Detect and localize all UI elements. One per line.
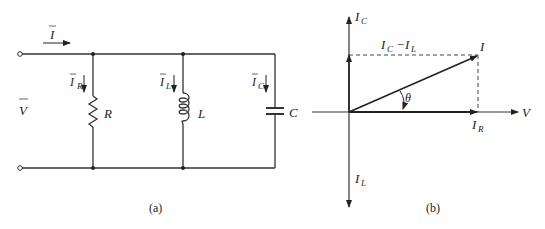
parallel-rlc-circuit bbox=[21, 54, 284, 168]
ir-label: I R bbox=[471, 117, 484, 134]
svg-text:I: I bbox=[69, 75, 75, 89]
svg-text:I: I bbox=[251, 75, 257, 89]
svg-text:I: I bbox=[380, 37, 386, 52]
source-current-label: I bbox=[49, 26, 56, 42]
svg-text:I: I bbox=[354, 171, 360, 186]
svg-text:L: L bbox=[410, 44, 416, 54]
svg-text:I: I bbox=[354, 9, 360, 24]
svg-text:I: I bbox=[49, 27, 55, 42]
caption-b: (b) bbox=[426, 201, 440, 215]
resistor-symbol bbox=[89, 96, 97, 127]
svg-text:I: I bbox=[159, 75, 165, 89]
svg-text:C: C bbox=[258, 81, 265, 91]
caption-a: (a) bbox=[149, 201, 162, 215]
svg-text:L: L bbox=[165, 81, 171, 91]
svg-text:L: L bbox=[360, 178, 366, 188]
svg-text:R: R bbox=[477, 124, 484, 134]
terminal-top[interactable] bbox=[18, 52, 23, 57]
terminal-bottom[interactable] bbox=[18, 166, 23, 171]
svg-text:I: I bbox=[471, 117, 477, 132]
resistor-label: R bbox=[103, 106, 112, 121]
inductor-label: L bbox=[197, 106, 205, 121]
svg-text:C: C bbox=[387, 44, 394, 54]
inductor-current-label: I L bbox=[159, 74, 171, 91]
junction-dot bbox=[181, 166, 185, 170]
svg-text:I: I bbox=[404, 37, 410, 52]
svg-text:V: V bbox=[19, 103, 29, 118]
svg-text:C: C bbox=[361, 16, 368, 26]
diagram-canvas: I V I R R I L L I C C (a) I C I bbox=[0, 0, 545, 229]
resultant-i-phasor bbox=[349, 56, 477, 112]
il-axis-label: I L bbox=[354, 171, 366, 188]
v-axis-label: V bbox=[522, 105, 532, 120]
capacitor-label: C bbox=[289, 105, 298, 120]
svg-text:−: − bbox=[396, 37, 405, 52]
inductor-coil bbox=[179, 93, 189, 125]
ic-axis-label: I C bbox=[354, 9, 368, 26]
theta-label: θ bbox=[405, 91, 411, 105]
junction-dot bbox=[91, 52, 95, 56]
theta-angle-arc bbox=[400, 91, 404, 109]
svg-text:R: R bbox=[76, 81, 83, 91]
junction-dot bbox=[181, 52, 185, 56]
resultant-i-label: I bbox=[479, 39, 485, 54]
resistor-current-label: I R bbox=[69, 74, 83, 91]
voltage-label: V bbox=[19, 99, 29, 118]
capacitor-current-label: I C bbox=[251, 74, 265, 91]
ic-minus-il-label: I C − I L bbox=[380, 37, 416, 54]
junction-dot bbox=[91, 166, 95, 170]
